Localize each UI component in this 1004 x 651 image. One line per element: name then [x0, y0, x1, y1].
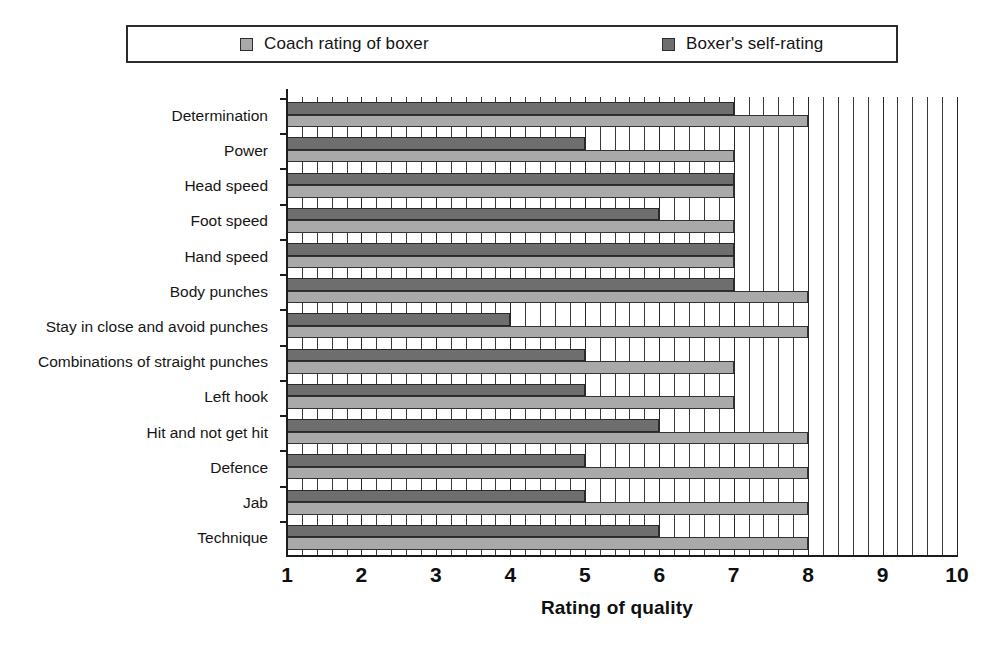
- bar-row: [287, 414, 957, 449]
- bar-self-rating: [287, 349, 585, 362]
- bar-coach-rating: [287, 432, 808, 445]
- bar-rows: [287, 97, 957, 555]
- bar-row: [287, 520, 957, 555]
- x-axis-tick-labels: 12345678910: [287, 563, 957, 591]
- bar-self-rating: [287, 278, 734, 291]
- x-axis-tick-label: 7: [728, 563, 740, 587]
- bar-row: [287, 273, 957, 308]
- bar-row: [287, 344, 957, 379]
- y-axis-category-labels: DeterminationPowerHead speedFoot speedHa…: [0, 97, 278, 555]
- bar-coach-rating: [287, 537, 808, 550]
- x-axis-tick-label: 10: [945, 563, 968, 587]
- x-axis-tick-label: 2: [356, 563, 368, 587]
- bar-self-rating: [287, 173, 734, 186]
- bar-row: [287, 449, 957, 484]
- bar-coach-rating: [287, 361, 734, 374]
- x-axis-title: Rating of quality: [0, 597, 1004, 619]
- legend-swatch-coach-icon: [240, 38, 253, 51]
- y-axis-label: Head speed: [184, 178, 268, 194]
- bar-row: [287, 238, 957, 273]
- bar-self-rating: [287, 384, 585, 397]
- x-axis-tick-label: 5: [579, 563, 591, 587]
- bar-row: [287, 203, 957, 238]
- y-axis-label: Jab: [243, 495, 268, 511]
- legend-entry-self: Boxer's self-rating: [662, 34, 823, 54]
- bar-self-rating: [287, 208, 659, 221]
- legend-entry-coach: Coach rating of boxer: [240, 34, 429, 54]
- bar-self-rating: [287, 243, 734, 256]
- plot-area: [287, 97, 957, 555]
- bar-coach-rating: [287, 502, 808, 515]
- y-axis-line: [286, 89, 288, 556]
- x-axis-tick-label: 1: [281, 563, 293, 587]
- chart-legend: Coach rating of boxer Boxer's self-ratin…: [126, 25, 898, 63]
- horizontal-bar-chart: Coach rating of boxer Boxer's self-ratin…: [0, 0, 1004, 651]
- x-axis-title-text: Rating of quality: [541, 597, 693, 619]
- bar-self-rating: [287, 313, 510, 326]
- bar-self-rating: [287, 137, 585, 150]
- x-axis-tick-label: 9: [877, 563, 889, 587]
- bar-coach-rating: [287, 185, 734, 198]
- bar-self-rating: [287, 490, 585, 503]
- bar-self-rating: [287, 419, 659, 432]
- bar-coach-rating: [287, 326, 808, 339]
- x-axis-tick-label: 6: [653, 563, 665, 587]
- gridline-major: [957, 97, 958, 555]
- bar-coach-rating: [287, 220, 734, 233]
- bar-coach-rating: [287, 150, 734, 163]
- bar-coach-rating: [287, 291, 808, 304]
- bar-row: [287, 132, 957, 167]
- legend-label-self: Boxer's self-rating: [686, 34, 823, 54]
- x-axis-tick-label: 3: [430, 563, 442, 587]
- y-axis-label: Combinations of straight punches: [38, 354, 268, 370]
- bar-coach-rating: [287, 256, 734, 269]
- y-axis-label: Defence: [210, 460, 268, 476]
- bar-coach-rating: [287, 115, 808, 128]
- bar-self-rating: [287, 525, 659, 538]
- bar-row: [287, 167, 957, 202]
- bar-coach-rating: [287, 467, 808, 480]
- y-axis-label: Technique: [197, 530, 268, 546]
- bar-row: [287, 379, 957, 414]
- y-axis-label: Determination: [172, 108, 269, 124]
- bar-row: [287, 308, 957, 343]
- bar-self-rating: [287, 102, 734, 115]
- y-axis-label: Hit and not get hit: [147, 425, 269, 441]
- bar-row: [287, 97, 957, 132]
- legend-swatch-self-icon: [662, 38, 675, 51]
- bar-coach-rating: [287, 396, 734, 409]
- legend-label-coach: Coach rating of boxer: [264, 34, 429, 54]
- y-axis-label: Body punches: [170, 284, 268, 300]
- x-axis-line: [286, 555, 958, 557]
- y-axis-label: Hand speed: [184, 249, 268, 265]
- y-axis-label: Stay in close and avoid punches: [46, 319, 268, 335]
- y-axis-label: Power: [224, 143, 268, 159]
- y-axis-label: Left hook: [204, 389, 268, 405]
- bar-row: [287, 485, 957, 520]
- bar-self-rating: [287, 454, 585, 467]
- y-axis-label: Foot speed: [190, 213, 268, 229]
- x-axis-tick-label: 8: [802, 563, 814, 587]
- x-axis-tick-label: 4: [504, 563, 516, 587]
